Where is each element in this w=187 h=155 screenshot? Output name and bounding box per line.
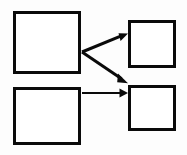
diagram-svg (0, 0, 187, 155)
node-top-right[interactable] (130, 22, 175, 67)
edge-topleft-to-bottomright-line (82, 52, 122, 79)
node-bottom-left-box[interactable] (15, 89, 80, 144)
edge-topleft-to-bottomright[interactable] (82, 52, 128, 83)
node-bottom-left[interactable] (15, 89, 80, 144)
edge-topleft-to-topright-arrowhead-icon (119, 33, 129, 41)
edge-bottomleft-to-bottomright-arrowhead-icon (120, 89, 129, 98)
node-layer (15, 13, 175, 144)
node-bottom-right[interactable] (130, 87, 175, 130)
edge-layer (82, 33, 128, 97)
edge-bottomleft-to-bottomright[interactable] (82, 89, 128, 98)
node-top-left-box[interactable] (15, 13, 80, 73)
edge-topleft-to-bottomright-arrowhead-icon (117, 74, 128, 84)
edge-topleft-to-topright-line (82, 35, 123, 52)
edge-topleft-to-topright[interactable] (82, 33, 128, 52)
node-top-left[interactable] (15, 13, 80, 73)
node-bottom-right-box[interactable] (130, 87, 175, 130)
diagram-canvas (0, 0, 187, 155)
node-top-right-box[interactable] (130, 22, 175, 67)
